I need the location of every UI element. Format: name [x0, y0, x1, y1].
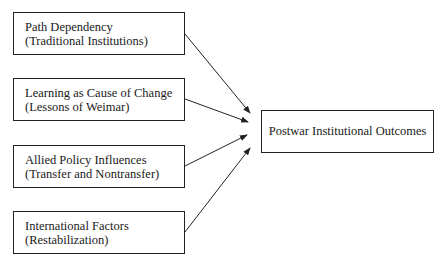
- source-box-international: International Factors (Restabilization): [13, 211, 185, 254]
- source-title: Path Dependency: [25, 20, 184, 34]
- source-subtitle: (Traditional Institutions): [25, 34, 184, 48]
- source-title: Allied Policy Influences: [25, 153, 184, 167]
- target-label: Postwar Institutional Outcomes: [269, 124, 427, 139]
- source-title: Learning as Cause of Change: [25, 86, 184, 100]
- target-box-postwar-outcomes: Postwar Institutional Outcomes: [261, 110, 434, 153]
- source-subtitle: (Transfer and Nontransfer): [25, 167, 184, 181]
- source-title: International Factors: [25, 219, 184, 233]
- arrow-path-dependency: [185, 34, 250, 113]
- source-subtitle: (Lessons of Weimar): [25, 100, 184, 114]
- source-box-path-dependency: Path Dependency (Traditional Institution…: [13, 12, 185, 55]
- arrow-allied-policy: [185, 135, 247, 166]
- source-box-allied-policy: Allied Policy Influences (Transfer and N…: [13, 145, 185, 188]
- source-subtitle: (Restabilization): [25, 233, 184, 247]
- source-box-learning: Learning as Cause of Change (Lessons of …: [13, 78, 185, 121]
- arrow-learning: [185, 99, 248, 122]
